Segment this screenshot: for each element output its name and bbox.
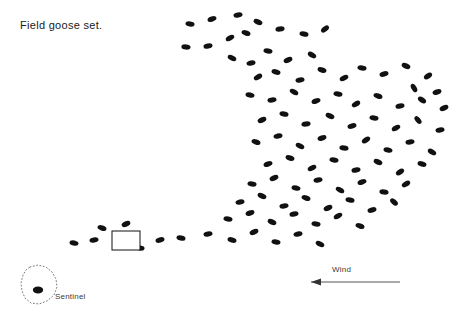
diagram-page: Field goose set. Sentinel Wind — [0, 0, 464, 319]
wind-label: Wind — [332, 265, 351, 274]
canvas-background — [0, 0, 464, 319]
sentinel-label: Sentinel — [55, 292, 86, 301]
sentinel-decoy-dot — [33, 287, 43, 294]
page-title: Field goose set. — [20, 19, 102, 31]
hunting-blind-rect — [112, 231, 140, 250]
field-goose-set-diagram: Field goose set. Sentinel Wind — [0, 0, 464, 319]
